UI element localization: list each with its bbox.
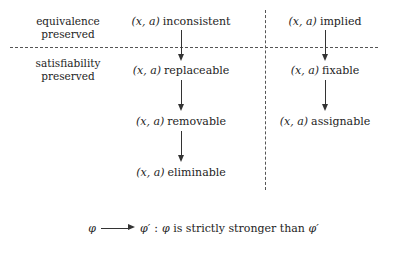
pair-label: (x, a) xyxy=(291,64,319,77)
node-fixable: (x, a)fixable xyxy=(291,64,360,77)
pair-label: (x, a) xyxy=(289,15,317,28)
node-word: removable xyxy=(167,115,226,128)
legend-phi-prime-object: φ′ xyxy=(308,222,318,235)
legend-phi-subject: φ xyxy=(162,222,170,235)
region-label-line2: preserved xyxy=(16,28,120,41)
region-label-line1: satisfiability xyxy=(36,57,101,69)
pair-label: (x, a) xyxy=(280,115,308,128)
legend-phi-prime: φ′ xyxy=(140,222,150,235)
node-word: assignable xyxy=(311,115,370,128)
node-word: replaceable xyxy=(164,64,229,77)
node-word: inconsistent xyxy=(163,15,231,28)
node-inconsistent: (x, a)inconsistent xyxy=(131,15,230,28)
arrow-head-icon xyxy=(178,155,184,162)
node-replaceable: (x, a)replaceable xyxy=(133,64,230,77)
node-word: eliminable xyxy=(168,166,226,179)
legend-phi: φ xyxy=(88,222,96,235)
node-eliminable: (x, a)eliminable xyxy=(136,166,226,179)
pair-label: (x, a) xyxy=(136,115,164,128)
arrow-head-icon xyxy=(322,54,328,61)
pair-label: (x, a) xyxy=(136,166,164,179)
region-label-satisfiability-preserved: satisfiability preserved xyxy=(16,57,120,82)
arrow-shaft xyxy=(181,30,182,55)
region-label-line2: preserved xyxy=(16,70,120,83)
arrow-head-icon xyxy=(178,54,184,61)
diagram-canvas: equivalence preserved satisfiability pre… xyxy=(0,0,407,257)
arrow-shaft xyxy=(181,131,182,156)
arrow-shaft xyxy=(325,80,326,105)
legend-caption: φφ′:φ is strictly stronger than φ′ xyxy=(0,222,407,236)
vertical-dashed-divider xyxy=(265,10,266,190)
arrow-head-icon xyxy=(178,104,184,111)
node-word: fixable xyxy=(322,64,359,77)
horizontal-dashed-divider xyxy=(10,47,378,48)
arrow-shaft xyxy=(181,80,182,105)
arrow-head-icon xyxy=(322,104,328,111)
legend-separator: : xyxy=(154,222,158,235)
node-word: implied xyxy=(320,15,362,28)
legend-text: is strictly stronger than xyxy=(173,222,305,235)
pair-label: (x, a) xyxy=(133,64,161,77)
region-label-line1: equivalence xyxy=(36,15,100,27)
arrow-shaft xyxy=(325,30,326,55)
node-removable: (x, a)removable xyxy=(136,115,226,128)
node-assignable: (x, a)assignable xyxy=(280,115,370,128)
node-implied: (x, a)implied xyxy=(289,15,362,28)
pair-label: (x, a) xyxy=(131,15,159,28)
arrow-shaft xyxy=(101,228,128,229)
region-label-equivalence-preserved: equivalence preserved xyxy=(16,15,120,40)
arrow-head-icon xyxy=(128,224,135,230)
legend-arrow-icon xyxy=(101,224,135,233)
